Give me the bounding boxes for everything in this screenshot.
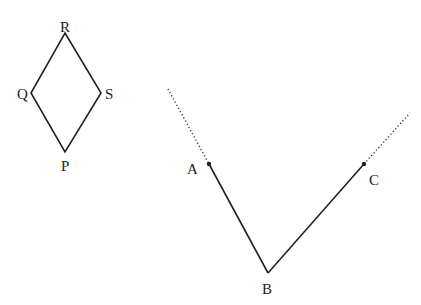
point-c <box>362 162 366 166</box>
point-a <box>207 162 211 166</box>
point-label-b: B <box>262 281 272 297</box>
ray-bc-extension <box>364 113 410 164</box>
ray-ba-extension <box>168 89 209 164</box>
rhombus-pqrs <box>31 33 101 152</box>
vertex-label-q: Q <box>17 86 28 102</box>
segment-ab <box>209 164 268 273</box>
geometry-diagram: R S P Q A B C <box>0 0 421 305</box>
vertex-label-s: S <box>105 86 113 102</box>
vertex-label-p: P <box>61 158 69 174</box>
segment-bc <box>268 164 364 273</box>
point-label-c: C <box>369 172 379 188</box>
vertex-label-r: R <box>60 19 70 35</box>
point-label-a: A <box>187 161 198 177</box>
